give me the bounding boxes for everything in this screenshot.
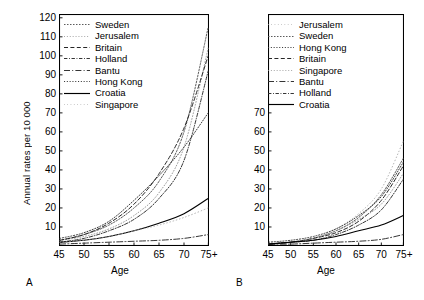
legend-line-swatch [268,76,294,87]
legend-line-swatch [64,42,90,53]
legend-item-label: Jerusalem [299,19,343,30]
y-axis-tick-label: 70 [254,108,265,118]
panel-a: Annual rates per 10 000 1020304050607080… [0,0,212,300]
data-series-line [269,166,403,244]
legend-line-swatch [268,99,294,110]
legend-item-label: Holland [299,87,331,98]
x-axis-label-a: Age [90,265,150,276]
y-axis-tick-label: 120 [39,13,56,23]
legend-line-swatch [64,19,90,30]
y-axis-tick-label: 60 [45,127,56,137]
legend-item: Hong Kong [268,42,347,53]
y-axis-tick-label: 60 [254,127,265,137]
legend-item: Bantu [64,65,143,76]
y-axis-tick-label: 40 [45,165,56,175]
legend-b: JerusalemSwedenHong KongBritainSingapore… [268,19,347,110]
legend-line-swatch [268,88,294,99]
legend-item: Singapore [268,65,347,76]
data-series-line [269,174,403,244]
legend-item-label: Hong Kong [299,42,347,53]
legend-item-label: Hong Kong [95,76,143,87]
legend-item: Jerusalem [268,19,347,30]
legend-line-swatch [268,65,294,76]
y-axis-tick-label: 110 [40,32,56,42]
x-axis-tick-label: 45 [45,250,73,260]
legend-item: Sweden [64,19,143,30]
data-series-line [269,216,403,245]
y-axis-tick-label: 30 [45,184,56,194]
legend-line-swatch [64,53,90,64]
x-axis-tick-label: 50 [70,250,98,260]
y-axis-tick-label: 20 [254,203,265,213]
y-axis-tick-label: 70 [45,108,56,118]
panel-letter-b: B [236,277,243,288]
data-series-line [269,159,403,245]
x-axis-tick-label: 60 [120,250,148,260]
x-axis-tick-label: 70 [170,250,198,260]
legend-item-label: Singapore [299,65,342,76]
x-axis-tick-label: 75+ [390,250,418,260]
x-axis-label-b: Age [296,265,356,276]
data-series-line [269,179,403,244]
y-axis-tick-label: 40 [254,165,265,175]
legend-item: Britain [64,42,143,53]
legend-line-swatch [268,53,294,64]
y-axis-tick-label: 10 [45,222,56,232]
legend-item-label: Bantu [95,65,120,76]
legend-item-label: Britain [95,42,122,53]
panel-b: Annual rates per 10 000 10203040506070 4… [212,0,424,300]
legend-item: Britain [268,53,347,64]
legend-line-swatch [268,19,294,30]
y-axis-tick-label: 50 [45,146,56,156]
legend-item: Sweden [268,30,347,41]
panel-letter-a: A [26,277,33,288]
y-axis-tick-label: 30 [254,184,265,194]
legend-line-swatch [64,31,90,42]
legend-item: Croatia [268,99,347,110]
legend-item-label: Sweden [95,19,129,30]
legend-item-label: Holland [95,53,127,64]
y-axis-tick-label: 100 [39,51,56,61]
legend-line-swatch [268,42,294,53]
legend-item-label: Jerusalem [95,30,139,41]
legend-line-swatch [64,99,90,110]
figure-two-panel-line-charts: Annual rates per 10 000 1020304050607080… [0,0,424,300]
legend-item: Hong Kong [64,76,143,87]
legend-line-swatch [268,31,294,42]
legend-item: Holland [268,87,347,98]
legend-line-swatch [64,65,90,76]
x-axis-tick-label: 65 [145,250,173,260]
y-axis-tick-label: 90 [45,70,56,80]
legend-item-label: Bantu [299,76,324,87]
legend-item: Jerusalem [64,30,143,41]
legend-line-swatch [64,76,90,87]
legend-item: Singapore [64,99,143,110]
legend-item-label: Sweden [299,30,333,41]
legend-line-swatch [64,88,90,99]
legend-item-label: Croatia [299,99,330,110]
legend-item-label: Croatia [95,87,126,98]
y-axis-tick-label: 50 [254,146,265,156]
y-axis-tick-label: 20 [45,203,56,213]
y-axis-tick-label: 80 [45,89,56,99]
legend-item-label: Singapore [95,99,138,110]
legend-item-label: Britain [299,53,326,64]
x-axis-tick-label: 55 [95,250,123,260]
legend-item: Holland [64,53,143,64]
legend-a: SwedenJerusalemBritainHollandBantuHong K… [64,19,143,110]
legend-item: Croatia [64,87,143,98]
y-axis-tick-label: 10 [254,222,265,232]
legend-item: Bantu [268,76,347,87]
